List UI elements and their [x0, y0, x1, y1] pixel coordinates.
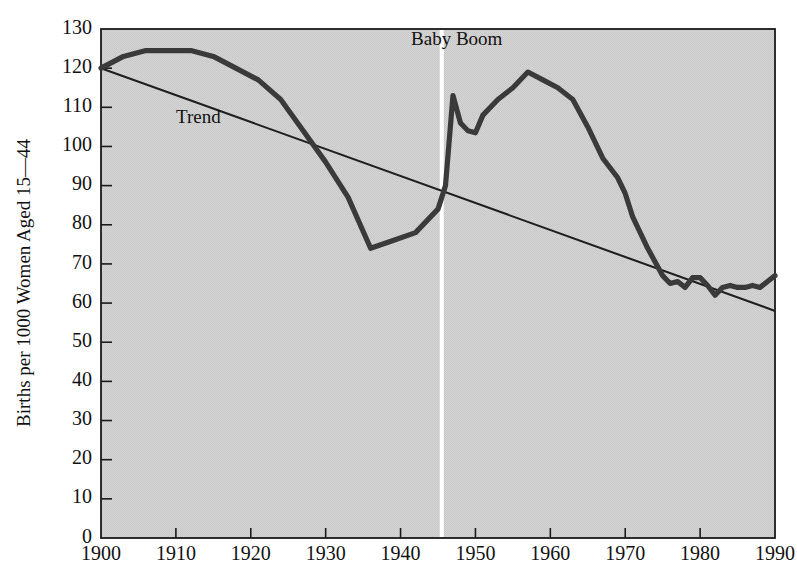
- y-tick-label-90: 90: [72, 172, 92, 194]
- x-tick-label-1950: 1950: [455, 542, 495, 564]
- y-tick-label-60: 60: [72, 290, 92, 312]
- x-tick-label-1930: 1930: [306, 542, 346, 564]
- x-tick-label-1990: 1990: [755, 542, 795, 564]
- x-tick-label-1920: 1920: [231, 542, 271, 564]
- y-tick-label-40: 40: [72, 368, 92, 390]
- fertility-rate-chart: 0102030405060708090100110120130 19001910…: [0, 0, 797, 573]
- trend-label: Trend: [176, 106, 221, 127]
- y-tick-label-20: 20: [72, 446, 92, 468]
- x-tick-label-1960: 1960: [530, 542, 570, 564]
- y-tick-label-70: 70: [72, 251, 92, 273]
- x-tick-label-1900: 1900: [81, 542, 121, 564]
- x-tick-label-1980: 1980: [680, 542, 720, 564]
- y-tick-label-110: 110: [63, 94, 92, 116]
- y-axis-title: Births per 1000 Women Aged 15—44: [13, 139, 34, 427]
- y-tick-label-10: 10: [72, 485, 92, 507]
- x-tick-label-1970: 1970: [605, 542, 645, 564]
- x-tick-label-1940: 1940: [381, 542, 421, 564]
- y-tick-label-100: 100: [62, 133, 92, 155]
- y-tick-label-120: 120: [62, 55, 92, 77]
- y-tick-label-50: 50: [72, 329, 92, 351]
- baby-boom-label: Baby Boom: [411, 28, 503, 49]
- y-tick-label-80: 80: [72, 211, 92, 233]
- x-tick-label-1910: 1910: [156, 542, 196, 564]
- y-tick-label-130: 130: [62, 16, 92, 38]
- y-tick-label-30: 30: [72, 407, 92, 429]
- chart-canvas: 0102030405060708090100110120130 19001910…: [0, 0, 797, 573]
